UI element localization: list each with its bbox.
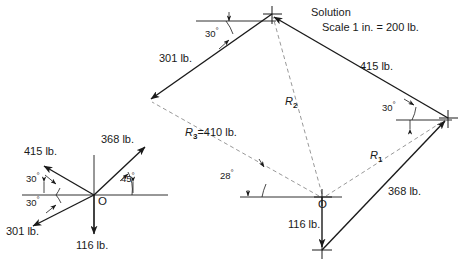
figure-title: Solution bbox=[311, 7, 351, 18]
tick-415-left bbox=[45, 175, 56, 184]
label-side-415: 415 lb. bbox=[360, 61, 393, 72]
vector-301-left bbox=[33, 195, 94, 226]
label-force-301-left: 301 lb. bbox=[6, 226, 39, 237]
label-resultant-r3: R3=410 lb. bbox=[185, 127, 237, 141]
label-angle-28: 28° bbox=[220, 169, 234, 181]
arc-top-30 bbox=[226, 21, 233, 34]
label-side-368: 368 lb. bbox=[388, 186, 421, 197]
label-resultant-r2: R2 bbox=[285, 96, 297, 110]
space-diagram-group bbox=[22, 147, 168, 234]
label-angle-30-upper-left: 30° bbox=[26, 172, 40, 184]
polygon-side-368 bbox=[322, 121, 445, 250]
figure-canvas: 415 lb. 368 lb. 301 lb. 116 lb. 30° 30° … bbox=[0, 0, 467, 268]
resultant-r2-line bbox=[273, 17, 322, 194]
label-force-415-left: 415 lb. bbox=[24, 146, 57, 157]
tick-right-30-upper bbox=[404, 99, 414, 105]
label-origin-left: O bbox=[98, 196, 107, 208]
label-resultant-r1: R1 bbox=[370, 150, 382, 164]
tick-28-upper bbox=[259, 159, 264, 167]
label-angle-30-right: 30° bbox=[382, 101, 396, 113]
vector-368-left bbox=[94, 147, 145, 195]
label-angle-30-lower-left: 30° bbox=[26, 196, 40, 208]
arc-415-left bbox=[56, 188, 60, 195]
label-force-116-left: 116 lb. bbox=[76, 240, 108, 251]
label-angle-45-left: 45° bbox=[121, 172, 135, 184]
label-angle-30-top: 30° bbox=[205, 27, 219, 39]
arc-right-30 bbox=[412, 107, 416, 120]
resultant-r1-line bbox=[326, 120, 445, 196]
arc-28 bbox=[262, 184, 266, 197]
label-origin-polygon: O bbox=[318, 199, 327, 211]
tick-301-left bbox=[46, 205, 56, 213]
resultant-r3-line bbox=[152, 102, 319, 196]
label-side-301: 301 lb. bbox=[159, 53, 192, 64]
label-side-116: 116 lb. bbox=[288, 219, 320, 230]
arc-301-left bbox=[56, 195, 61, 203]
label-force-368-left: 368 lb. bbox=[101, 134, 134, 145]
figure-scale-note: Scale 1 in. = 200 lb. bbox=[322, 22, 419, 33]
